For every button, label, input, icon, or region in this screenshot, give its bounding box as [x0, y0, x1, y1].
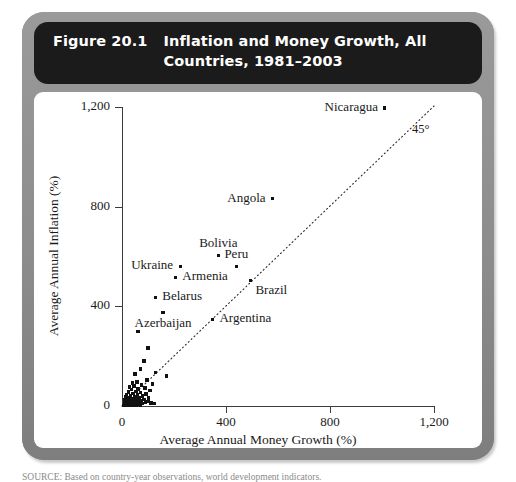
figure-title-bar: Figure 20.1 Inflation and Money Growth, … [34, 22, 482, 84]
plot-card [34, 92, 482, 448]
source-note: SOURCE: Based on country-year observatio… [22, 472, 492, 482]
figure-title-text: Inflation and Money Growth, All Countrie… [164, 31, 467, 71]
figure-number-label: Figure 20.1 [53, 31, 148, 51]
figure-root: Figure 20.1 Inflation and Money Growth, … [0, 0, 516, 482]
figure-title-row: Figure 20.1 Inflation and Money Growth, … [53, 31, 466, 71]
